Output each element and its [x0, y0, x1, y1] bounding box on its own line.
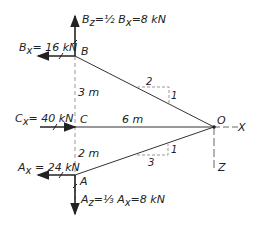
Bz-label: Bz=½ Bx=8 kN — [82, 13, 166, 28]
dim-CO-label: 6 m — [122, 113, 143, 126]
z-axis-label: Z — [217, 161, 226, 174]
Az-label: Az=⅓ Ax=8 kN — [80, 193, 165, 208]
truss-diagram: Bz=½ Bx=8 kN Bx= 16 kN B 3 m 2 1 Cx= 40 … — [0, 0, 261, 226]
upper-slope-triangle — [137, 87, 169, 103]
lower-slope-triangle — [137, 144, 168, 155]
Cx-label: Cx= 40 kN — [15, 112, 73, 127]
point-A-label: A — [79, 175, 88, 188]
dim-BC-label: 3 m — [78, 86, 99, 99]
Ax-label: Ax = 24 kN — [17, 161, 80, 176]
x-axis-label: X — [237, 121, 246, 134]
dim-CA-label: 2 m — [78, 147, 99, 160]
upper-run-label: 2 — [146, 76, 152, 87]
upper-rise-label: 1 — [171, 90, 177, 101]
lower-rise-label: 1 — [171, 144, 177, 155]
point-O — [212, 125, 216, 129]
point-B-label: B — [81, 45, 89, 58]
point-O-label: O — [217, 114, 226, 127]
point-C-label: C — [80, 113, 88, 126]
Bx-label: Bx= 16 kN — [19, 41, 77, 56]
lower-run-label: 3 — [148, 157, 154, 168]
